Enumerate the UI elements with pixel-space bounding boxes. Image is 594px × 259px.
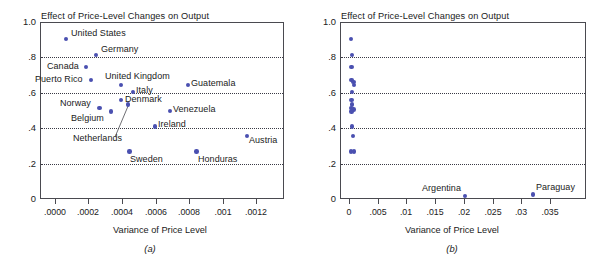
panel-b-ytick-0.8: .8: [308, 51, 336, 62]
panel-b-xtick-7: .035: [534, 207, 566, 217]
datapoint-honduras[interactable]: [194, 149, 198, 153]
panel-b-xtickmark-3: [435, 199, 436, 204]
panel-a-xtick-4: .0008: [169, 207, 209, 217]
datapoint-b-germany[interactable]: [350, 53, 354, 57]
panel-b-ytick-1.0: 1.0: [308, 16, 336, 27]
pointlabel-germany: Germany: [101, 44, 138, 54]
datapoint-venezuela[interactable]: [168, 109, 172, 113]
panel-b-ytick-0.4: .4: [308, 122, 336, 133]
panel-b-xaxis-title: Variance of Price Level: [372, 225, 532, 235]
datapoint-b-honduras[interactable]: [352, 149, 356, 153]
panel-b-xtick-2: .01: [392, 207, 420, 217]
pointlabel-united-states: United States: [71, 28, 126, 38]
panel-a-title: Effect of Price-Level Changes on Output: [41, 11, 209, 21]
pointlabel-united-kingdom: United Kingdom: [105, 71, 170, 81]
panel-b-caption: (b): [432, 243, 472, 254]
panel-a-xaxis-title: Variance of Price Level: [80, 225, 240, 235]
panel-a-caption: (a): [130, 243, 170, 254]
panel-a-ytick-0.4: .4: [8, 122, 36, 133]
panel-b-title: Effect of Price-Level Changes on Output: [341, 11, 509, 21]
panel-b-ytick-0: 0: [308, 193, 336, 204]
pointlabel-guatemala: Guatemala: [191, 78, 235, 88]
panel-a-xtickmark-4: [189, 199, 190, 204]
panel-a-gridline-0.8: [41, 57, 283, 58]
pointlabel-puerto-rico: Puerto Rico: [35, 74, 83, 84]
panel-b-xtickmark-1: [378, 199, 379, 204]
pointlabel-b-argentina: Argentina: [422, 183, 461, 193]
panel-b-plot-area: [340, 22, 586, 199]
panel-b-gridline-0.8: [341, 57, 585, 58]
datapoint-norway[interactable]: [97, 106, 101, 110]
panel-b-gridline-0.6: [341, 93, 585, 94]
pointlabel-honduras: Honduras: [198, 154, 237, 164]
panel-b-xtickmark-6: [521, 199, 522, 204]
datapoint-b-belgium[interactable]: [349, 109, 353, 113]
panel-b: Effect of Price-Level Changes on Output …: [300, 0, 594, 259]
panel-b-gridline-0.2: [341, 164, 585, 165]
datapoint-b-ireland[interactable]: [350, 124, 354, 128]
panel-a-ytick-1.0: 1.0: [8, 16, 36, 27]
pointlabel-ireland: Ireland: [158, 119, 186, 129]
datapoint-belgium[interactable]: [109, 109, 113, 113]
panel-a-ytick-0.6: .6: [8, 87, 36, 98]
panel-b-xtickmark-4: [464, 199, 465, 204]
panel-a-xtickmark-2: [122, 199, 123, 204]
pointlabel-austria: Austria: [249, 135, 277, 145]
panel-a-plot-area: [40, 22, 284, 199]
panel-b-xtickmark-7: [550, 199, 551, 204]
pointlabel-b-paraguay: Paraguay: [536, 182, 575, 192]
pointlabel-denmark: Denmark: [125, 94, 162, 104]
pointlabel-canada: Canada: [47, 61, 79, 71]
panel-b-xtickmark-2: [406, 199, 407, 204]
panel-b-xtickmark-5: [493, 199, 494, 204]
pointlabel-belgium: Belgium: [71, 113, 104, 123]
panel-b-xtick-1: .005: [362, 207, 394, 217]
panel-a-gridline-0.6: [41, 93, 283, 94]
panel-b-xtick-4: .02: [450, 207, 478, 217]
panel-a-xtickmark-0: [55, 199, 56, 204]
figure-price-level-output: Effect of Price-Level Changes on Output …: [0, 0, 594, 259]
panel-a-xtickmark-1: [88, 199, 89, 204]
panel-a-xtick-6: .0012: [236, 207, 276, 217]
panel-a-xtickmark-3: [156, 199, 157, 204]
pointlabel-venezuela: Venezuela: [173, 104, 216, 114]
pointlabel-norway: Norway: [60, 98, 91, 108]
datapoint-b-united-states[interactable]: [349, 37, 353, 41]
panel-b-ytick-0.2: .2: [308, 158, 336, 169]
panel-b-xtickmark-0: [349, 199, 350, 204]
datapoint-b-paraguay[interactable]: [531, 192, 535, 196]
datapoint-sweden[interactable]: [127, 149, 131, 153]
panel-a-ytick-0.8: .8: [8, 51, 36, 62]
panel-b-gridline-0.4: [341, 128, 585, 129]
panel-a-xtickmark-5: [223, 199, 224, 204]
panel-a-xtickmark-6: [256, 199, 257, 204]
pointlabel-sweden: Sweden: [130, 154, 163, 164]
datapoint-ireland[interactable]: [153, 124, 157, 128]
panel-b-xtick-6: .03: [507, 207, 535, 217]
panel-b-xtick-0: 0: [334, 207, 364, 217]
panel-b-xtick-5: .025: [477, 207, 509, 217]
panel-b-ytick-0.6: .6: [308, 87, 336, 98]
panel-b-xtick-3: .015: [419, 207, 451, 217]
panel-a-ytick-0: 0: [8, 193, 36, 204]
panel-a-ytick-0.2: .2: [8, 158, 36, 169]
pointlabel-netherlands: Netherlands: [73, 133, 122, 143]
panel-a: Effect of Price-Level Changes on Output …: [0, 0, 300, 259]
